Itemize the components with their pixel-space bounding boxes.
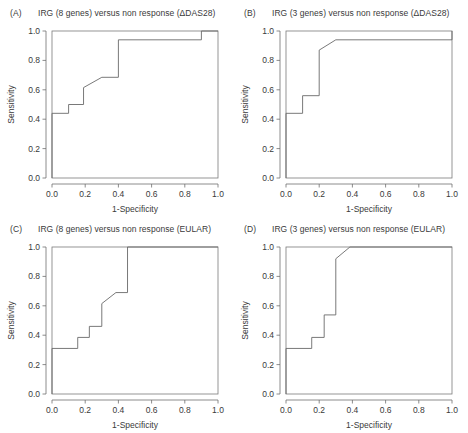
x-tick-label: 0.2: [313, 189, 325, 199]
y-tick-label: 0.6: [262, 85, 274, 95]
y-tick-label: 0.2: [28, 144, 40, 154]
x-axis-title: 1-Specificity: [112, 204, 159, 214]
y-tick-label: 0.0: [28, 173, 40, 183]
y-tick-label: 0.8: [28, 55, 40, 65]
x-tick-label: 0.0: [46, 405, 58, 415]
x-tick-label: 0.8: [413, 189, 425, 199]
x-tick-label: 0.8: [413, 405, 425, 415]
panel-d-plot: 0.00.20.40.60.81.00.00.20.40.60.81.01-Sp…: [234, 216, 468, 432]
y-tick-label: 0.6: [262, 301, 274, 311]
x-tick-label: 1.0: [212, 405, 224, 415]
roc-figure: (A) IRG (8 genes) versus non response (Δ…: [0, 0, 468, 433]
x-tick-label: 0.4: [346, 189, 358, 199]
y-tick-label: 0.4: [262, 330, 274, 340]
roc-curve: [286, 247, 452, 394]
y-tick-label: 0.4: [28, 114, 40, 124]
y-tick-label: 0.6: [28, 301, 40, 311]
plot-box: [52, 247, 218, 394]
roc-curve: [52, 247, 218, 394]
x-tick-label: 0.2: [79, 189, 91, 199]
x-tick-label: 0.6: [380, 405, 392, 415]
y-tick-label: 0.4: [28, 330, 40, 340]
y-tick-label: 0.2: [28, 360, 40, 370]
panel-b-plot: 0.00.20.40.60.81.00.00.20.40.60.81.01-Sp…: [234, 0, 468, 216]
x-tick-label: 0.0: [280, 405, 292, 415]
panel-d: (D) IRG (3 genes) versus non response (E…: [234, 216, 468, 432]
roc-curve: [52, 31, 218, 178]
panel-b: (B) IRG (3 genes) versus non response (Δ…: [234, 0, 468, 216]
x-tick-label: 0.8: [179, 189, 191, 199]
panel-c: (C) IRG (8 genes) versus non response (E…: [0, 216, 234, 432]
x-tick-label: 0.2: [79, 405, 91, 415]
y-tick-label: 0.2: [262, 360, 274, 370]
roc-curve: [286, 31, 452, 178]
y-tick-label: 0.8: [28, 271, 40, 281]
y-tick-label: 0.0: [262, 389, 274, 399]
y-tick-label: 0.6: [28, 85, 40, 95]
x-tick-label: 1.0: [446, 189, 458, 199]
x-tick-label: 0.6: [380, 189, 392, 199]
y-tick-label: 1.0: [262, 242, 274, 252]
x-tick-label: 0.4: [346, 405, 358, 415]
y-axis-title: Sensitivity: [6, 85, 16, 124]
x-axis-title: 1-Specificity: [346, 204, 393, 214]
y-tick-label: 0.4: [262, 114, 274, 124]
x-axis-title: 1-Specificity: [346, 420, 393, 430]
y-axis-title: Sensitivity: [240, 301, 250, 340]
plot-box: [286, 31, 452, 178]
y-tick-label: 0.8: [262, 271, 274, 281]
x-axis-title: 1-Specificity: [112, 420, 159, 430]
x-tick-label: 0.0: [46, 189, 58, 199]
panel-a: (A) IRG (8 genes) versus non response (Δ…: [0, 0, 234, 216]
x-tick-label: 0.2: [313, 405, 325, 415]
y-tick-label: 1.0: [28, 26, 40, 36]
x-tick-label: 0.4: [112, 189, 124, 199]
panel-a-plot: 0.00.20.40.60.81.00.00.20.40.60.81.01-Sp…: [0, 0, 234, 216]
y-tick-label: 0.2: [262, 144, 274, 154]
x-tick-label: 1.0: [212, 189, 224, 199]
y-tick-label: 1.0: [262, 26, 274, 36]
y-tick-label: 1.0: [28, 242, 40, 252]
x-tick-label: 1.0: [446, 405, 458, 415]
panel-c-plot: 0.00.20.40.60.81.00.00.20.40.60.81.01-Sp…: [0, 216, 234, 432]
x-tick-label: 0.6: [146, 189, 158, 199]
plot-box: [286, 247, 452, 394]
y-axis-title: Sensitivity: [6, 301, 16, 340]
x-tick-label: 0.0: [280, 189, 292, 199]
x-tick-label: 0.8: [179, 405, 191, 415]
x-tick-label: 0.4: [112, 405, 124, 415]
y-axis-title: Sensitivity: [240, 85, 250, 124]
y-tick-label: 0.8: [262, 55, 274, 65]
y-tick-label: 0.0: [262, 173, 274, 183]
x-tick-label: 0.6: [146, 405, 158, 415]
y-tick-label: 0.0: [28, 389, 40, 399]
